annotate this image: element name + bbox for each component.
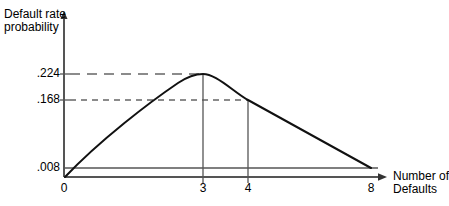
x-tick-label-0: 0	[54, 182, 74, 195]
x-tick-label-3: 3	[193, 182, 213, 195]
y-axis-label-line2: probability	[4, 20, 59, 34]
x-axis-arrowhead	[378, 173, 387, 181]
x-tick-label-8: 8	[361, 182, 381, 195]
distribution-curve	[65, 74, 371, 177]
y-tick-label-008: .008	[20, 161, 60, 174]
x-tick-label-4: 4	[238, 182, 258, 195]
y-tick-label-224: .224	[20, 67, 60, 80]
y-axis-label-line1: Default rate	[4, 7, 66, 21]
y-axis-label: Default rateprobability	[4, 8, 66, 34]
y-tick-label-168: .168	[20, 93, 60, 106]
x-axis-label-line2: Defaults	[393, 182, 437, 196]
x-axis-label-line1: Number of	[393, 169, 449, 183]
x-axis-label: Number ofDefaults	[393, 170, 449, 196]
